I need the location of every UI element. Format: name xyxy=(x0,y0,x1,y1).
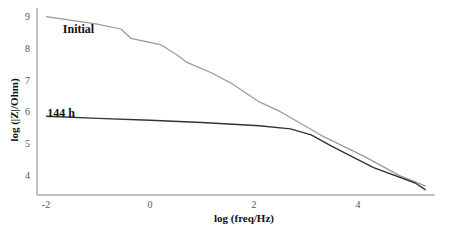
impedance-chart: 456789 -2024 Initial144 h log (freq/Hz) … xyxy=(0,0,450,231)
series-lines xyxy=(46,17,426,190)
y-tick-label: 6 xyxy=(25,106,30,117)
y-tick-label: 4 xyxy=(25,170,30,181)
series-line-144-h xyxy=(46,116,426,190)
x-tick-label: 0 xyxy=(148,199,153,210)
y-axis-label: log (|Z|/Ohm) xyxy=(8,78,21,142)
y-tick-label: 7 xyxy=(25,75,30,86)
series-label: 144 h xyxy=(47,106,75,120)
y-tick-label: 9 xyxy=(25,11,30,22)
series-labels: Initial144 h xyxy=(47,22,95,120)
x-tick-label: -2 xyxy=(42,199,50,210)
series-line-initial xyxy=(46,17,426,187)
axes xyxy=(37,8,435,195)
y-tick-label: 8 xyxy=(25,43,30,54)
y-tick-label: 5 xyxy=(25,138,30,149)
x-tick-label: 4 xyxy=(356,199,361,210)
y-ticks: 456789 xyxy=(25,11,30,181)
series-label: Initial xyxy=(63,22,95,36)
x-axis-label: log (freq/Hz) xyxy=(214,212,274,225)
x-tick-label: 2 xyxy=(252,199,257,210)
x-ticks: -2024 xyxy=(42,199,361,210)
